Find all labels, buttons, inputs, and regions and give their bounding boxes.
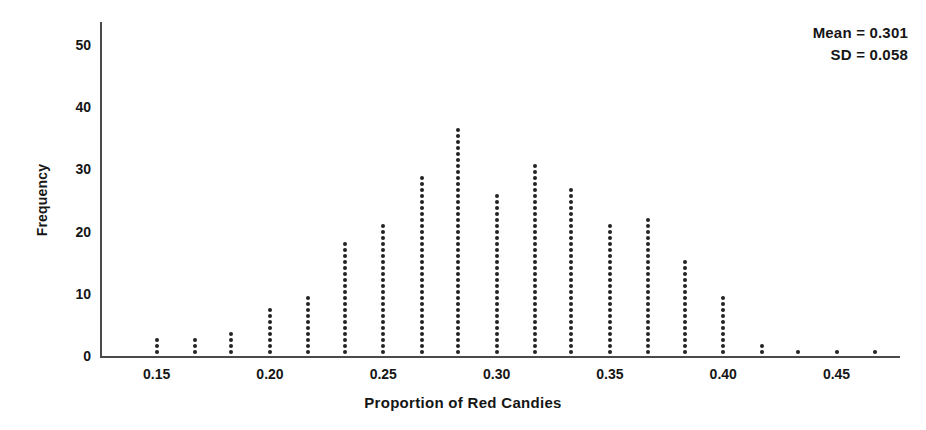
data-dot — [343, 266, 347, 270]
data-dot — [381, 302, 385, 306]
data-dot — [456, 260, 460, 264]
data-dot — [268, 344, 272, 348]
data-dot — [533, 344, 537, 348]
data-dot — [381, 320, 385, 324]
data-dot — [569, 296, 573, 300]
data-dot — [420, 296, 424, 300]
data-dot — [456, 206, 460, 210]
data-dot — [608, 314, 612, 318]
data-dot — [456, 188, 460, 192]
data-dot — [495, 278, 499, 282]
data-dot — [533, 242, 537, 246]
data-dot — [569, 218, 573, 222]
data-dot — [683, 266, 687, 270]
data-dot — [306, 296, 310, 300]
data-dot — [533, 182, 537, 186]
data-dot — [456, 164, 460, 168]
data-dot — [381, 296, 385, 300]
data-dot — [569, 188, 573, 192]
data-dot — [533, 254, 537, 258]
data-dot — [608, 290, 612, 294]
data-dot — [456, 350, 460, 354]
plot-area: 01020304050 0.150.200.250.300.350.400.45 — [100, 22, 900, 358]
data-dot — [533, 170, 537, 174]
data-dot — [495, 266, 499, 270]
data-dot — [873, 350, 877, 354]
data-dot — [456, 332, 460, 336]
data-dot — [683, 290, 687, 294]
data-dot — [721, 332, 725, 336]
data-dot — [343, 254, 347, 258]
data-dot — [306, 308, 310, 312]
data-dot — [456, 344, 460, 348]
data-dot — [456, 278, 460, 282]
data-dot — [533, 200, 537, 204]
data-dot — [533, 302, 537, 306]
dot-column — [870, 350, 880, 356]
dot-column — [680, 260, 690, 356]
data-dot — [495, 338, 499, 342]
data-dot — [381, 224, 385, 228]
data-dot — [569, 254, 573, 258]
data-dot — [646, 254, 650, 258]
data-dot — [796, 350, 800, 354]
x-axis-line — [100, 356, 900, 358]
data-dot — [381, 290, 385, 294]
data-dot — [495, 212, 499, 216]
data-dot — [533, 320, 537, 324]
y-axis-title: Frequency — [34, 140, 50, 260]
data-dot — [533, 224, 537, 228]
data-dot — [420, 266, 424, 270]
data-dot — [495, 350, 499, 354]
dot-column — [453, 128, 463, 356]
data-dot — [420, 206, 424, 210]
data-dot — [456, 176, 460, 180]
data-dot — [456, 212, 460, 216]
data-dot — [569, 200, 573, 204]
data-dot — [456, 320, 460, 324]
data-dot — [381, 284, 385, 288]
data-dot — [420, 176, 424, 180]
data-dot — [420, 254, 424, 258]
data-dot — [456, 242, 460, 246]
data-dot — [569, 212, 573, 216]
data-dot — [721, 350, 725, 354]
data-dot — [683, 284, 687, 288]
data-dot — [420, 272, 424, 276]
data-dot — [343, 260, 347, 264]
data-dot — [343, 308, 347, 312]
data-dot — [495, 230, 499, 234]
data-dot — [683, 350, 687, 354]
data-dot — [683, 308, 687, 312]
data-dot — [646, 296, 650, 300]
data-dot — [646, 278, 650, 282]
data-dot — [495, 194, 499, 198]
data-dot — [456, 152, 460, 156]
data-dot — [495, 260, 499, 264]
data-dot — [721, 308, 725, 312]
data-dot — [381, 248, 385, 252]
data-dot — [420, 284, 424, 288]
data-dot — [456, 218, 460, 222]
data-dot — [569, 260, 573, 264]
data-dot — [608, 272, 612, 276]
x-tick-label: 0.40 — [710, 366, 737, 382]
data-dot — [456, 308, 460, 312]
data-dot — [229, 344, 233, 348]
data-dot — [569, 242, 573, 246]
data-dot — [646, 242, 650, 246]
data-dot — [608, 332, 612, 336]
data-dot — [533, 188, 537, 192]
data-dot — [495, 242, 499, 246]
x-tick-label: 0.30 — [483, 366, 510, 382]
data-dot — [343, 272, 347, 276]
data-dot — [343, 350, 347, 354]
data-dot — [420, 326, 424, 330]
data-dot — [646, 320, 650, 324]
data-dot — [683, 326, 687, 330]
y-axis-line — [100, 22, 102, 358]
data-dot — [569, 320, 573, 324]
data-dot — [495, 284, 499, 288]
data-dot — [268, 350, 272, 354]
data-dot — [683, 272, 687, 276]
